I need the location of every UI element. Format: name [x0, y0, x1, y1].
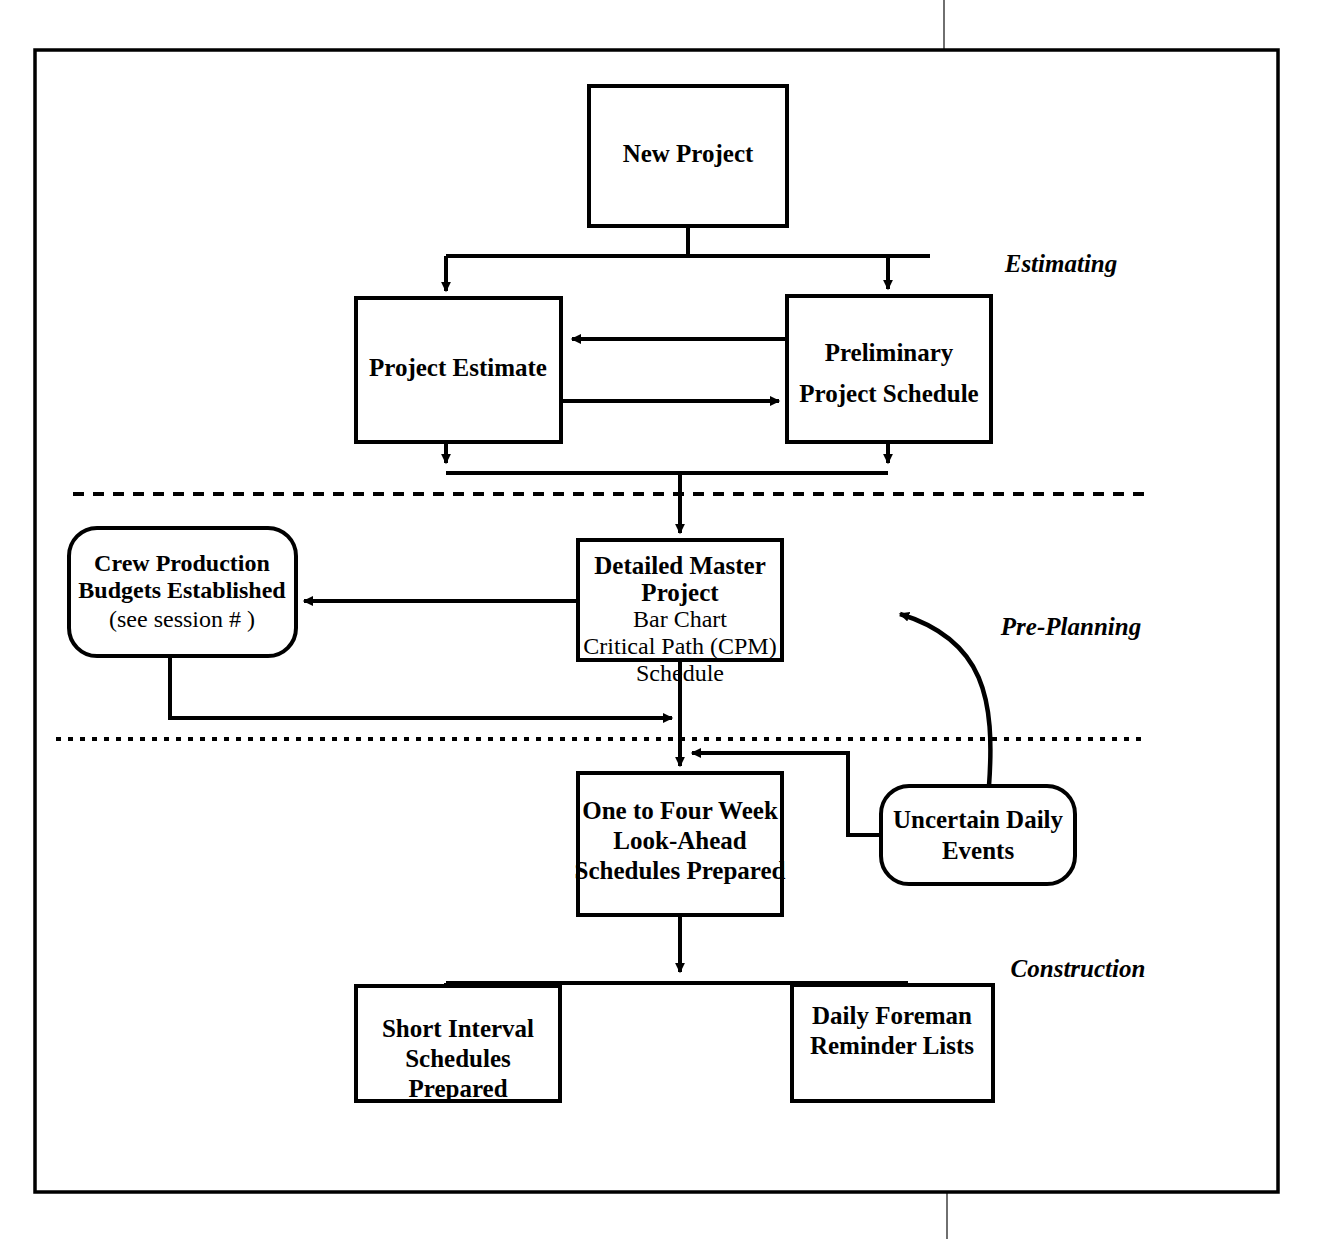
node-uncertain-daily-events-line-0: Uncertain Daily [893, 806, 1064, 833]
phase-label-construction: Construction [1011, 955, 1146, 982]
node-detailed-master-project-line-3: Critical Path (CPM) [583, 633, 776, 659]
node-short-interval-schedules-line-2: Prepared [408, 1075, 507, 1102]
node-new-project-line-0: New Project [623, 140, 754, 167]
node-crew-production-budgets-line-1: Budgets Established [78, 577, 286, 603]
node-one-to-four-week-look-ahead-line-2: Schedules Prepared [575, 857, 786, 884]
phase-label-estimating: Estimating [1004, 250, 1118, 277]
node-daily-foreman-reminder-lists-line-1: Reminder Lists [810, 1032, 974, 1059]
node-crew-production-budgets-line-2: (see session # ) [109, 606, 255, 632]
node-preliminary-project-schedule-shape [787, 296, 991, 442]
node-detailed-master-project-line-1: Project [641, 579, 719, 606]
node-preliminary-project-schedule-line-0: Preliminary [825, 339, 954, 366]
node-one-to-four-week-look-ahead-line-1: Look-Ahead [613, 827, 746, 854]
node-preliminary-project-schedule-line-1: Project Schedule [799, 380, 978, 407]
node-short-interval-schedules[interactable]: Short Interval Schedules Prepared [356, 986, 560, 1102]
connector-uncertain-to-master-curve [900, 614, 990, 786]
node-detailed-master-project-line-0: Detailed Master [594, 552, 765, 579]
flowchart-diagram: New Project Project Estimate Preliminary… [0, 0, 1318, 1239]
phase-label-pre-planning: Pre-Planning [1000, 613, 1141, 640]
node-one-to-four-week-look-ahead[interactable]: One to Four Week Look-Ahead Schedules Pr… [575, 773, 786, 915]
node-daily-foreman-reminder-lists[interactable]: Daily Foreman Reminder Lists [792, 985, 993, 1101]
node-uncertain-daily-events[interactable]: Uncertain Daily Events [881, 786, 1075, 884]
node-crew-production-budgets-line-0: Crew Production [94, 550, 270, 576]
node-daily-foreman-reminder-lists-line-0: Daily Foreman [812, 1002, 972, 1029]
node-detailed-master-project-line-4: Schedule [636, 660, 724, 686]
node-uncertain-daily-events-shape [881, 786, 1075, 884]
node-crew-production-budgets[interactable]: Crew Production Budgets Established (see… [69, 528, 296, 656]
node-preliminary-project-schedule[interactable]: Preliminary Project Schedule [787, 296, 991, 442]
node-uncertain-daily-events-line-1: Events [942, 837, 1015, 864]
node-detailed-master-project[interactable]: Detailed Master Project Bar Chart Critic… [578, 540, 782, 686]
connector-crew-budgets-to-main [170, 656, 672, 718]
node-short-interval-schedules-line-1: Schedules [405, 1045, 511, 1072]
node-new-project[interactable]: New Project [589, 86, 787, 226]
node-project-estimate[interactable]: Project Estimate [356, 298, 561, 442]
node-project-estimate-line-0: Project Estimate [369, 354, 547, 381]
node-detailed-master-project-line-2: Bar Chart [633, 606, 727, 632]
flowchart-page: New Project Project Estimate Preliminary… [0, 0, 1318, 1239]
node-one-to-four-week-look-ahead-line-0: One to Four Week [582, 797, 778, 824]
node-short-interval-schedules-line-0: Short Interval [382, 1015, 534, 1042]
